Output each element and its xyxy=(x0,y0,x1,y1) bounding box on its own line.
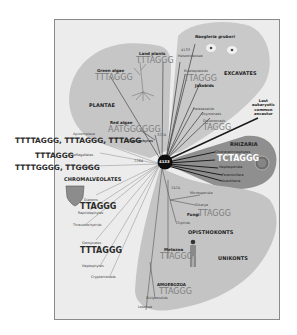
metazoa-seq: TTAGGG xyxy=(160,253,193,261)
unikonts-group-label: UNIKONTS xyxy=(218,256,248,261)
dictyostelids-label: Dictyostelids xyxy=(146,297,168,300)
kinetoplastids-seq: TTAGGG xyxy=(184,75,217,83)
node-number-excavates: 4133 xyxy=(181,49,190,53)
kinetoplastids-label: Kinetoplastids xyxy=(184,70,208,73)
dinoflagellates-label: Dinoflagellates xyxy=(68,154,93,157)
green-algae-seq: TTTAGGG xyxy=(95,74,133,82)
chytrids-label: Chytrids xyxy=(176,222,190,225)
heterolobosea-label: Heterolobosea xyxy=(178,55,203,58)
raphidophytes-label: Raphidophytes xyxy=(78,212,103,215)
excavates-region xyxy=(168,22,270,155)
land-plants-seq: TTTAGGG xyxy=(136,57,174,65)
plantae-group-label: PLANTAE xyxy=(89,103,115,108)
naegleria-label: Naegleria gruberi xyxy=(195,35,235,39)
rhizaria-group-label: RHIZARIA xyxy=(230,142,258,147)
rhizaria-member-4: Acantharia xyxy=(222,180,240,183)
oxymonads-label: Oxymonads xyxy=(201,113,221,116)
red-algae-seq: AATGGGGGG xyxy=(108,126,161,134)
dikarya-label: Dikarya xyxy=(195,204,208,207)
root-node-label: 4133 xyxy=(159,160,170,164)
fungi-seq: TTAGGG xyxy=(198,210,231,218)
cryptomonads-label: Cryptomonads xyxy=(91,276,116,279)
oomycetes-label: Oomycetes xyxy=(82,242,101,245)
lca-label: Last eukaryotic common ancestor xyxy=(252,99,275,116)
diplomonads-seq: TAGGG xyxy=(203,124,231,132)
excavates-group-label: EXCAVATES xyxy=(224,71,257,76)
haptophytes-label: Haptophytes xyxy=(82,265,104,268)
jakobids-label: Jakobids xyxy=(195,84,214,88)
lobosea-label: Lobosea xyxy=(138,306,152,309)
ciliates-label: Ciliates xyxy=(80,166,92,169)
apicomplexa-seq: TTTTAGGG, TTTAGGG, TTTAGG xyxy=(15,137,141,144)
chromalveolates-group-label: CHROMALVEOLATES xyxy=(64,177,121,182)
microsporidia-label: Microsporidia xyxy=(190,192,213,195)
node-number-opisthokonts: 2424 xyxy=(171,187,180,191)
rhizaria-member-2: Haplosporidia xyxy=(219,166,242,169)
node-number-plantae: 3224 xyxy=(157,134,166,138)
diatoms-seq: TTAGGG xyxy=(80,203,116,211)
amoebozoa-seq: TTAGGG xyxy=(159,288,192,296)
thraustochytrids-label: Thraustochytrids xyxy=(73,224,102,227)
node-number-chromalveolates: 2264 xyxy=(134,160,143,164)
oomycetes-seq: TTTAGGG xyxy=(80,247,122,255)
unikonts-region xyxy=(135,168,277,311)
parabasalids-label: Parabasalids xyxy=(193,108,214,111)
opisthokonts-group-label: OPISTHOKONTS xyxy=(188,230,234,235)
rhizaria-seq: TCTAGGG xyxy=(217,155,259,163)
rhizaria-member-3: Foraminifera xyxy=(222,174,243,177)
